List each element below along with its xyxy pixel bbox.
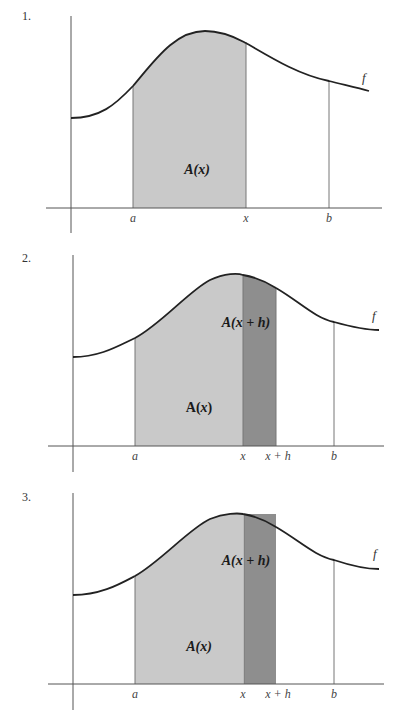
panel-1-area-label-A-x: A(x) [184, 162, 210, 178]
panel-3-function-label: f [373, 546, 377, 562]
panel-1-tick-label: x [243, 211, 248, 226]
panel-3-number: 3. [22, 490, 31, 505]
panel-2-area-label-A-x: A(x) [186, 400, 212, 416]
panel-2-function-label: f [372, 308, 376, 324]
diagram-svg [0, 0, 398, 723]
panel-3-area-label-A-x: A(x) [186, 639, 212, 655]
panel-2-area-label-A-x-plus-h: A(x + h) [222, 315, 270, 331]
panel-3-region-light [135, 514, 243, 684]
panel-1-function-label: f [362, 70, 366, 86]
panel-3-tick-label: x + h [265, 687, 290, 702]
panel-1-tick-label: b [326, 211, 332, 226]
panel-2-tick-label: x [240, 449, 245, 464]
panel-2-tick-label: x + h [265, 449, 290, 464]
diagram-canvas [0, 0, 398, 723]
panel-2-tick-label: b [331, 449, 337, 464]
panel-3-region-dark [244, 514, 276, 684]
panel-3-tick-label: x [240, 687, 245, 702]
panel-1-region-light [133, 31, 246, 208]
panel-3-tick-label: b [331, 687, 337, 702]
panel-1-tick-label: a [130, 211, 136, 226]
panel-2-number: 2. [22, 251, 31, 266]
panel-3-tick-label: a [132, 687, 138, 702]
panel-3-area-label-A-x-plus-h: A(x + h) [222, 553, 270, 569]
panel-2-region-light [135, 274, 243, 446]
panel-1-number: 1. [22, 9, 31, 24]
panel-2-tick-label: a [132, 449, 138, 464]
panel-2-region-dark [243, 275, 276, 446]
